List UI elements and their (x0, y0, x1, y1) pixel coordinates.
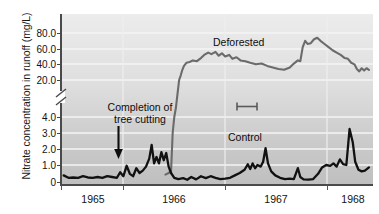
x-tick-label-1967: 1967 (264, 193, 287, 205)
x-tick-label-1965: 1965 (81, 193, 104, 205)
x-tick-label-1966: 1966 (162, 193, 185, 205)
y-axis-tick-labels: 80.0 60.0 40.0 20.0 4.0 3.0 2.0 1.0 0 (16, 0, 56, 214)
x-tick-mark (225, 185, 226, 190)
y-tick-label: 2.0 (20, 145, 56, 155)
y-tick-label: 60.0 (20, 45, 56, 55)
y-axis-break-icon (54, 88, 68, 106)
annotation-line-1: Completion of (88, 101, 192, 113)
y-tick-label: 80.0 (20, 29, 56, 39)
y-tick-label: 20.0 (20, 76, 56, 86)
annotation-arrow-icon (113, 126, 124, 160)
x-tick-mark (61, 185, 62, 190)
y-tick-label: 1.0 (20, 161, 56, 171)
axis-break-curve-marker (236, 102, 258, 111)
annotation-completion-of-tree-cutting: Completion of tree cutting (88, 101, 192, 125)
chart-figure: Nitrate concentration in runoff (mg/L) 8… (0, 0, 379, 214)
series-line-control (64, 129, 369, 180)
x-tick-label-1968: 1968 (341, 193, 364, 205)
y-tick-label: 4.0 (20, 113, 56, 123)
x-tick-mark (327, 185, 328, 190)
x-tick-mark (123, 185, 124, 190)
y-tick-label: 0 (20, 178, 56, 188)
plot-area: Completion of tree cutting Deforested Co… (62, 14, 373, 185)
series-label-control: Control (228, 131, 262, 143)
annotation-line-2: tree cutting (88, 113, 192, 125)
y-tick-label: 3.0 (20, 129, 56, 139)
series-label-deforested: Deforested (213, 36, 264, 48)
y-tick-label: 40.0 (20, 60, 56, 70)
